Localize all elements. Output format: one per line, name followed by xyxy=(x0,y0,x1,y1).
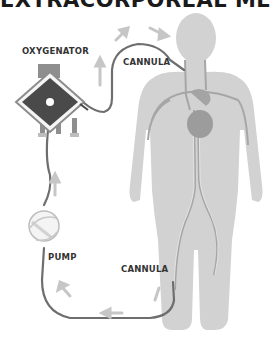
pump-device xyxy=(29,211,59,241)
oxygenator-label: OXYGENATOR xyxy=(22,46,89,56)
arrow-up-icon xyxy=(155,288,159,300)
oxygenator-device xyxy=(16,64,88,137)
cannula-top-label: CANNULA xyxy=(123,57,170,67)
pump-label: PUMP xyxy=(48,252,77,262)
cannula-bottom-label: CANNULA xyxy=(121,264,168,274)
